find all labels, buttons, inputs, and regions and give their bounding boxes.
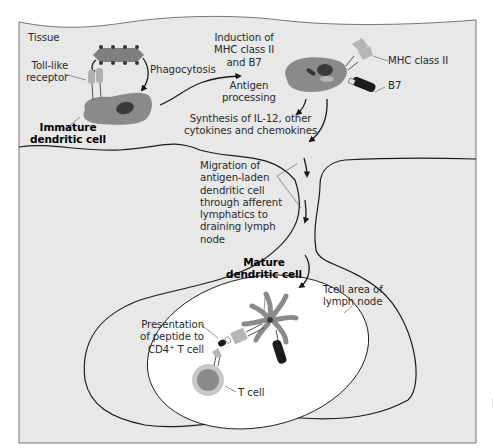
antigen-icon bbox=[93, 45, 144, 65]
synthesis-label: Synthesis of IL-12, other cytokines and … bbox=[184, 113, 317, 138]
toll-like-receptor-label: Toll-like receptor bbox=[26, 60, 68, 85]
phagocytosis-label: Phagocytosis bbox=[150, 64, 216, 76]
t-cell-label: T cell bbox=[238, 387, 264, 399]
induction-label: Induction of MHC class II and B7 bbox=[214, 32, 274, 69]
tcell-area-label: Tcell area of lymph node bbox=[323, 284, 383, 309]
migration-label: Migration of antigen-laden dendritic cel… bbox=[200, 160, 282, 246]
tissue-label: Tissue bbox=[28, 32, 59, 44]
presentation-label: Presentation of peptide to CD4⁺ T cell bbox=[140, 319, 204, 356]
antigen-processing-label: Antigen processing bbox=[222, 80, 276, 105]
mhc-class-ii-label: MHC class II bbox=[388, 55, 448, 67]
immature-dendritic-cell-label: Immature dendritic cell bbox=[30, 121, 106, 146]
mature-dendritic-cell-label: Mature dendritic cell bbox=[226, 256, 302, 281]
b7-label: B7 bbox=[388, 80, 401, 92]
